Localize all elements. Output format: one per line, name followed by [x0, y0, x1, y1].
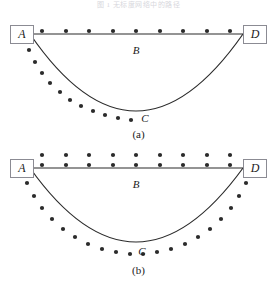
node-dot: [40, 71, 44, 75]
node-dot: [103, 113, 107, 117]
node-dot: [40, 163, 44, 167]
node-dot: [79, 104, 83, 108]
node-dot: [116, 116, 120, 120]
node-dot: [181, 29, 185, 33]
node-dot: [25, 181, 29, 185]
node-dot: [86, 242, 90, 246]
node-dot: [237, 194, 241, 198]
node-dot: [134, 163, 138, 167]
panel-a: A D B C (a): [0, 10, 277, 142]
node-dot: [40, 206, 44, 210]
label-c-panel-b: C: [132, 246, 152, 257]
node-dot: [32, 194, 36, 198]
node-dot: [169, 247, 173, 251]
node-dot: [114, 250, 118, 254]
node-dot: [50, 217, 54, 221]
node-dot: [64, 153, 68, 157]
node-dot: [87, 163, 91, 167]
node-dot: [111, 29, 115, 33]
label-b-panel-b: B: [126, 179, 146, 190]
node-dot: [100, 247, 104, 251]
panel-b: A D B C (b): [0, 142, 277, 290]
node-dot: [111, 163, 115, 167]
page-header-faint-text: 图 1 无标度网络中的路径: [0, 0, 277, 10]
node-dot: [27, 48, 31, 52]
node-dot: [208, 227, 212, 231]
node-dot: [134, 29, 138, 33]
node-dot: [205, 29, 209, 33]
node-dot: [48, 81, 52, 85]
caption-panel-a: (a): [0, 128, 277, 140]
node-dot: [40, 153, 44, 157]
node-dot: [181, 163, 185, 167]
node-dot: [228, 29, 232, 33]
node-a-panel-a[interactable]: A: [10, 25, 34, 44]
node-dot: [40, 29, 44, 33]
label-b-panel-a: B: [126, 45, 146, 56]
node-dot: [129, 118, 133, 122]
label-c-panel-a: C: [135, 113, 155, 124]
caption-panel-b: (b): [0, 264, 277, 276]
node-dot: [228, 153, 232, 157]
node-dot: [64, 163, 68, 167]
node-dot: [158, 153, 162, 157]
node-dot: [196, 235, 200, 239]
node-dot: [58, 90, 62, 94]
node-d-panel-a[interactable]: D: [243, 25, 267, 44]
node-dot: [158, 29, 162, 33]
node-dot: [183, 242, 187, 246]
node-dot: [73, 235, 77, 239]
node-dot: [61, 227, 65, 231]
figure-root: 图 1 无标度网络中的路径 A D B C (a) A D B C (b): [0, 0, 277, 290]
node-dot: [229, 206, 233, 210]
node-dot: [205, 153, 209, 157]
node-d-panel-b[interactable]: D: [243, 159, 267, 178]
node-dot: [181, 153, 185, 157]
node-dot: [87, 153, 91, 157]
node-dot: [87, 29, 91, 33]
node-dot: [33, 60, 37, 64]
node-dot: [205, 163, 209, 167]
node-dot: [158, 163, 162, 167]
node-a-panel-b[interactable]: A: [10, 159, 34, 178]
node-dot: [228, 163, 232, 167]
node-dot: [219, 217, 223, 221]
node-dot: [111, 153, 115, 157]
node-dot: [68, 98, 72, 102]
node-dot: [64, 29, 68, 33]
node-dot: [244, 181, 248, 185]
node-dot: [155, 250, 159, 254]
node-dot: [91, 109, 95, 113]
node-dot: [134, 153, 138, 157]
